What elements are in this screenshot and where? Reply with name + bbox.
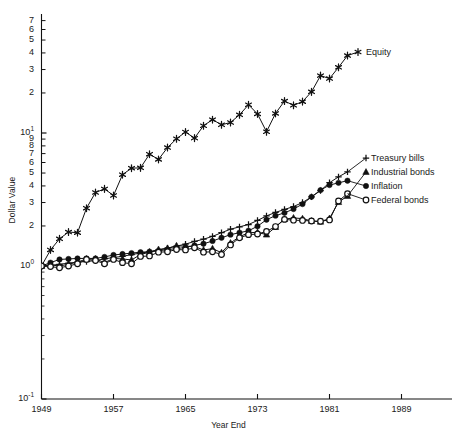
y-axis-ticks xyxy=(42,21,47,399)
x-tick-1957: 1957 xyxy=(103,405,123,414)
y-tick-6: 6 xyxy=(4,158,34,167)
y-tick-3: 3 xyxy=(4,198,34,207)
legend-label-treasury-bills: Treasury bills xyxy=(371,154,424,163)
y-tick-40: 4 xyxy=(4,48,34,57)
x-tick-1989: 1989 xyxy=(391,405,411,414)
y-tick-10e-1: 10-1 xyxy=(4,394,34,403)
x-axis-ticks xyxy=(42,394,402,399)
y-tick-70: 7 xyxy=(4,16,34,25)
axis-lines xyxy=(42,14,453,399)
x-tick-1965: 1965 xyxy=(175,405,195,414)
legend-markers xyxy=(348,49,370,203)
chart-plot-area xyxy=(0,0,457,438)
legend-label-equity: Equity xyxy=(366,48,391,57)
y-tick-10e1: 101 xyxy=(4,128,34,137)
x-axis-label: Year End xyxy=(0,420,457,430)
y-tick-10e0: 100 xyxy=(4,261,34,270)
legend-label-inflation: Inflation xyxy=(371,182,403,191)
y-tick-30: 3 xyxy=(4,65,34,74)
y-tick-20: 2 xyxy=(4,88,34,97)
legend-label-federal-bonds: Federal bonds xyxy=(371,196,429,205)
y-tick-5: 5 xyxy=(4,168,34,177)
legend-label-industrial-bonds: Industrial bonds xyxy=(371,168,435,177)
series-equity xyxy=(39,52,351,269)
y-tick-50: 5 xyxy=(4,35,34,44)
y-tick-60: 6 xyxy=(4,25,34,34)
y-tick-4: 4 xyxy=(4,181,34,190)
y-tick-7: 7 xyxy=(4,149,34,158)
y-tick-2: 2 xyxy=(4,221,34,230)
x-tick-1973: 1973 xyxy=(247,405,267,414)
chart-figure: Dollar Value Year End 234567892345671011… xyxy=(0,0,457,438)
x-tick-1981: 1981 xyxy=(319,405,339,414)
x-tick-1949: 1949 xyxy=(31,405,51,414)
